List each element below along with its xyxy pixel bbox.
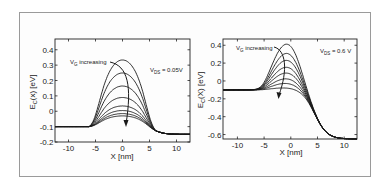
series-line bbox=[55, 111, 190, 135]
left-y-label: EC(x) [eV] bbox=[28, 74, 38, 109]
left-ticks: -10-505100.40.30.20.10-0.1-0.2 bbox=[40, 39, 190, 153]
series-line bbox=[55, 116, 190, 134]
y-tick-label: 0 bbox=[49, 107, 54, 116]
y-tick-label: 0 bbox=[217, 77, 222, 86]
series-line bbox=[223, 88, 357, 139]
right-arrow-label: VG increasing bbox=[236, 45, 273, 53]
left-arrow-label: VG increasing bbox=[70, 59, 107, 67]
series-line bbox=[55, 114, 190, 135]
series-line bbox=[223, 73, 357, 139]
figure-canvas: -10-505100.40.30.20.10-0.1-0.2 X [nm] EC… bbox=[0, 0, 389, 189]
y-tick-label: 0.3 bbox=[42, 61, 54, 70]
series-line bbox=[223, 53, 357, 138]
x-tick-label: -5 bbox=[261, 141, 269, 150]
x-tick-label: 5 bbox=[315, 141, 320, 150]
right-curves bbox=[223, 44, 357, 139]
x-tick-label: -10 bbox=[63, 144, 75, 153]
x-tick-label: -10 bbox=[232, 141, 244, 150]
right-arrowhead-icon bbox=[277, 92, 282, 99]
y-tick-label: -0.6 bbox=[208, 131, 222, 140]
series-line bbox=[223, 79, 357, 139]
x-tick-label: 10 bbox=[172, 144, 181, 153]
right-y-label: EC(X) [eV] bbox=[196, 72, 206, 108]
x-tick-label: 10 bbox=[340, 141, 349, 150]
left-arrowhead-icon bbox=[124, 120, 129, 127]
left-x-label: X [nm] bbox=[110, 152, 133, 161]
y-tick-label: 0.4 bbox=[42, 46, 54, 55]
x-tick-label: -5 bbox=[92, 144, 100, 153]
y-tick-label: 0.4 bbox=[210, 41, 222, 50]
right-x-label: X [nm] bbox=[279, 148, 302, 157]
series-line bbox=[223, 67, 357, 139]
y-tick-label: -0.2 bbox=[208, 95, 222, 104]
left-plot: -10-505100.40.30.20.10-0.1-0.2 X [nm] EC… bbox=[28, 39, 190, 161]
series-line bbox=[55, 73, 190, 134]
x-tick-label: 5 bbox=[147, 144, 152, 153]
y-tick-label: -0.4 bbox=[208, 113, 222, 122]
y-tick-label: -0.1 bbox=[40, 123, 54, 132]
y-tick-label: 0.1 bbox=[42, 92, 54, 101]
left-vds-label: VDS = 0.05V bbox=[150, 67, 183, 75]
series-line bbox=[223, 44, 357, 139]
y-tick-label: 0.2 bbox=[210, 59, 222, 68]
right-plot: -10-505100.40.20-0.2-0.4-0.6 X [nm] EC(X… bbox=[196, 39, 357, 157]
y-tick-label: 0.2 bbox=[42, 77, 54, 86]
series-line bbox=[223, 60, 357, 138]
y-tick-label: -0.2 bbox=[40, 138, 54, 147]
right-vds-label: VDS = 0.6 V bbox=[320, 48, 351, 56]
series-line bbox=[223, 83, 357, 138]
